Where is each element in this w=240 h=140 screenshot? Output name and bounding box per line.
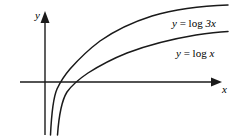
curve-label-argument: x [209,47,214,59]
curve-label-function: log [193,47,207,59]
y-axis-arrowhead [41,11,50,23]
x-axis-arrowhead [211,78,222,87]
curve-label-argument: 3x [205,17,215,29]
curve-label-log-3x: y = log 3x [172,18,216,29]
y-axis-label: y [35,10,40,21]
curve-label-function: log [189,17,203,29]
log-curve-figure: y x y = log 3x y = log x [0,0,240,140]
curve-label-equals: = [177,17,189,29]
curve-label-log-x: y = log x [176,48,214,59]
curve-label-equals: = [181,47,193,59]
x-axis-label: x [222,84,227,95]
